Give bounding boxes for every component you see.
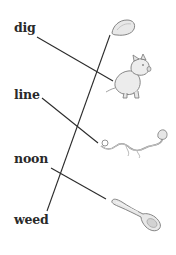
matching-canvas <box>0 0 176 255</box>
match-line-noon-spoon <box>51 168 106 199</box>
spoon-picture <box>112 199 161 231</box>
vine-picture <box>101 130 167 158</box>
pig-picture <box>106 54 151 98</box>
match-line-line-vine <box>42 98 98 143</box>
seed-picture <box>112 20 135 35</box>
